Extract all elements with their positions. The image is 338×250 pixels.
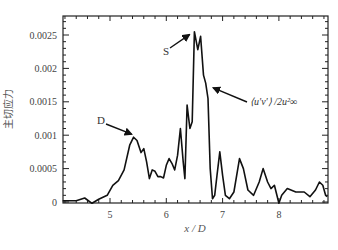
annotation-label-s: S (163, 45, 169, 57)
x-tick-label: 6 (164, 209, 169, 220)
y-tick-label: 0.0015 (30, 96, 58, 107)
annotation-label-d: D (97, 114, 105, 126)
y-tick-label: 0.002 (35, 63, 58, 74)
chart: 5678 00.00050.0010.00150.0020.0025 DS⟨u'… (0, 0, 338, 250)
x-axis-label: x / D (183, 222, 205, 234)
annotation-arrow-s (170, 35, 189, 48)
y-ticks: 00.00050.0010.00150.0020.0025 (30, 22, 329, 208)
x-tick-label: 8 (276, 209, 281, 220)
y-tick-label: 0.0025 (30, 30, 58, 41)
y-tick-label: 0 (52, 197, 57, 208)
x-tick-label: 5 (108, 209, 113, 220)
plot-frame (63, 16, 328, 203)
x-tick-label: 7 (220, 209, 225, 220)
annotation-arrow-series (213, 88, 247, 102)
annotation-label-series: ⟨u'v'⟩ /2u²∞ (250, 96, 297, 107)
y-tick-label: 0.0005 (30, 163, 58, 174)
y-axis-label: 主切应力 (2, 89, 14, 129)
y-tick-label: 0.001 (35, 130, 58, 141)
annotation-arrow-d (106, 124, 132, 134)
